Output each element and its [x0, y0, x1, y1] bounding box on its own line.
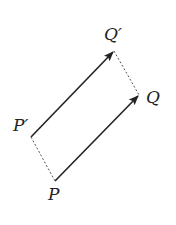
label-q: Q	[146, 89, 160, 106]
label-p: P	[48, 186, 59, 203]
label-p-prime: P′	[13, 117, 28, 134]
vector-p-q	[55, 96, 138, 181]
vector-pprime-qprime	[31, 52, 113, 137]
dashed-qprime-q	[114, 51, 139, 95]
vector-diagram	[0, 0, 176, 225]
dashed-pprime-p	[31, 137, 55, 181]
label-q-prime: Q′	[104, 26, 122, 43]
